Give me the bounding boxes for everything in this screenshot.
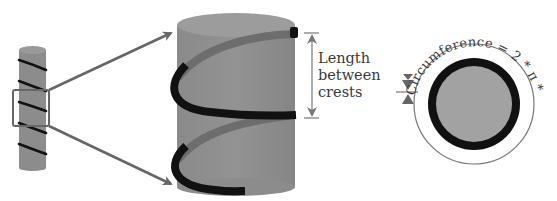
pitch-label: Length between crests [318, 50, 381, 101]
pitch-label-line-2: between [318, 67, 381, 84]
helix-diagram: Circumference = 2 * π * radius [0, 0, 557, 201]
pitch-label-line-3: crests [318, 84, 381, 101]
small-cylinder [19, 46, 46, 171]
pitch-label-line-1: Length [318, 50, 381, 67]
pitch-dimension [304, 33, 319, 118]
large-cylinder [174, 13, 298, 196]
zoom-arrows [49, 33, 171, 184]
